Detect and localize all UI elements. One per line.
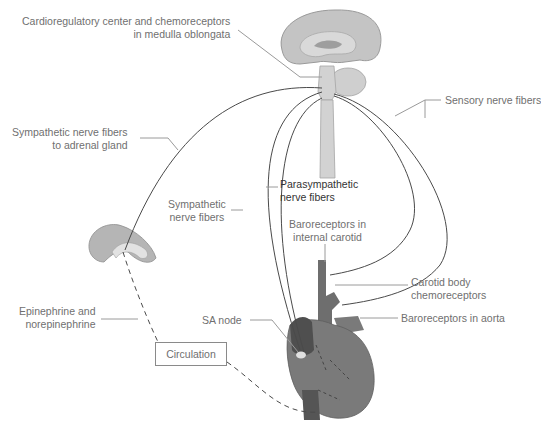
circulation-box: Circulation — [155, 342, 227, 366]
label-cardioregulatory-line1: Cardioregulatory center and chemorecepto… — [22, 15, 230, 28]
label-sympathetic-adrenal-line1: Sympathetic nerve fibers — [12, 126, 128, 139]
label-carotid-body-line1: Carotid body — [411, 276, 486, 289]
label-sympathetic-line2: nerve fibers — [168, 211, 226, 224]
label-epinephrine-line2: norepinephrine — [19, 318, 95, 331]
label-parasympathetic: Parasympathetic nerve fibers — [280, 178, 358, 204]
label-cardioregulatory-line2: in medulla oblongata — [22, 28, 230, 41]
label-parasympathetic-line1: Parasympathetic — [280, 178, 358, 191]
label-epinephrine: Epinephrine and norepinephrine — [19, 305, 95, 331]
label-baro-aorta: Baroreceptors in aorta — [401, 312, 505, 325]
label-sympathetic-adrenal: Sympathetic nerve fibers to adrenal glan… — [12, 126, 128, 152]
label-parasympathetic-line2: nerve fibers — [280, 191, 358, 204]
adrenal-gland-illustration — [89, 225, 156, 263]
label-sympathetic-adrenal-line2: to adrenal gland — [12, 139, 128, 152]
label-carotid-body-line2: chemoreceptors — [411, 289, 486, 302]
label-sensory: Sensory nerve fibers — [445, 94, 541, 107]
leader-sympathetic-adrenal — [140, 138, 178, 150]
label-baro-internal-line1: Baroreceptors in — [289, 218, 366, 231]
label-cardioregulatory: Cardioregulatory center and chemorecepto… — [22, 15, 230, 41]
label-sympathetic-line1: Sympathetic — [168, 198, 226, 211]
label-baro-internal-carotid: Baroreceptors in internal carotid — [289, 218, 366, 244]
label-baro-internal-line2: internal carotid — [289, 231, 366, 244]
label-carotid-body: Carotid body chemoreceptors — [411, 276, 486, 302]
leader-sensory — [395, 100, 441, 118]
brain-illustration — [281, 10, 381, 178]
label-epinephrine-line1: Epinephrine and — [19, 305, 95, 318]
label-sympathetic: Sympathetic nerve fibers — [168, 198, 226, 224]
label-sa-node: SA node — [202, 314, 242, 327]
